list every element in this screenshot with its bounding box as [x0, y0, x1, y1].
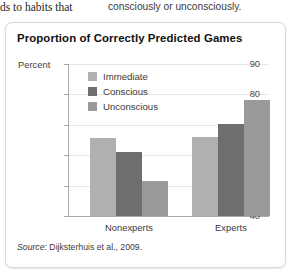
chart-legend: Immediate Conscious Unconscious [88, 70, 158, 115]
source-label: Source: [17, 242, 47, 252]
x-axis-line [68, 216, 269, 217]
legend-item-conscious: Conscious [88, 85, 158, 98]
y-axis-title: Percent [18, 59, 50, 70]
bar-experts-unconscious [244, 100, 270, 216]
legend-item-immediate: Immediate [88, 70, 158, 83]
bar-nonexperts-unconscious [142, 181, 168, 216]
surrounding-page-text: ds to habits that consciously or unconsc… [0, 0, 294, 22]
y-axis-line [68, 64, 69, 217]
legend-label-conscious: Conscious [103, 87, 148, 97]
legend-item-unconscious: Unconscious [88, 100, 158, 113]
y-tick-mark-70 [64, 125, 68, 126]
y-tick-mark-50 [64, 186, 68, 187]
source-note: Source: Dijksterhuis et al., 2009. [17, 242, 142, 252]
y-tick-label-90: 90 [240, 59, 260, 69]
page-text-right-column: consciously or unconsciously. [108, 1, 241, 12]
chart-title: Proportion of Correctly Predicted Games [17, 32, 242, 44]
x-axis-label-nonexperts: Nonexperts [76, 222, 182, 233]
figure-card: Proportion of Correctly Predicted Games … [5, 22, 286, 268]
y-tick-mark-40 [64, 216, 68, 217]
legend-label-immediate: Immediate [103, 72, 148, 82]
page-text-left-column: ds to habits that [0, 1, 73, 13]
legend-label-unconscious: Unconscious [103, 102, 158, 112]
legend-swatch-unconscious [88, 102, 97, 111]
bar-nonexperts-conscious [116, 152, 142, 216]
legend-swatch-conscious [88, 87, 97, 96]
bar-experts-immediate [192, 137, 218, 216]
bar-experts-conscious [218, 124, 244, 216]
x-axis-label-experts: Experts [178, 222, 284, 233]
y-tick-mark-80 [64, 94, 68, 95]
legend-swatch-immediate [88, 72, 97, 81]
y-tick-label-80: 80 [240, 89, 260, 99]
bar-nonexperts-immediate [90, 138, 116, 216]
source-citation: Dijksterhuis et al., 2009. [47, 242, 142, 252]
gridline-90 [69, 64, 269, 65]
y-tick-mark-90 [64, 64, 68, 65]
y-tick-mark-60 [64, 155, 68, 156]
